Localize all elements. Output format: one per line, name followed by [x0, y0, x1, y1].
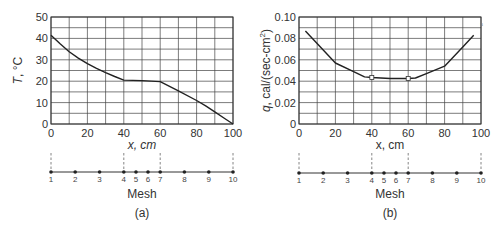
y-tick-label: 40: [36, 32, 48, 44]
mesh-node-label: 5: [134, 175, 139, 184]
y-tick-label: 10: [36, 97, 48, 109]
mesh-node: [394, 171, 398, 175]
y-tick-label: 30: [36, 54, 48, 66]
mesh-node: [406, 171, 410, 175]
mesh-node-label: 1: [297, 176, 302, 185]
y-tick-label: 0.08: [275, 32, 296, 44]
x-tick-label: 100: [472, 127, 490, 139]
x-tick-label: 20: [81, 127, 93, 139]
mesh-node: [134, 170, 138, 174]
panel-caption: (b): [383, 206, 398, 220]
x-tick-label: 0: [296, 127, 302, 139]
mesh-label: Mesh: [375, 187, 404, 201]
heat-flux-curve: [305, 31, 473, 79]
axis-ticks: 02040608010001020304050: [36, 11, 242, 139]
mesh-node-label: 4: [122, 175, 127, 184]
panel-caption: (a): [135, 206, 150, 220]
mesh-node-label: 6: [394, 176, 399, 185]
y-tick-label: 50: [36, 11, 48, 23]
panel-a-temperature-chart: 02040608010001020304050 x, cm T, °C 1234…: [11, 11, 242, 220]
mesh-node: [146, 170, 150, 174]
y-tick-label: 0.02: [275, 97, 296, 109]
mesh-node: [231, 170, 235, 174]
mesh-node-label: 10: [229, 175, 238, 184]
x-tick-label: 100: [224, 127, 242, 139]
mesh-node-label: 8: [430, 176, 435, 185]
mesh-node: [122, 170, 126, 174]
x-tick-label: 0: [48, 127, 54, 139]
x-axis-label: x, cm: [376, 138, 405, 152]
mesh-node: [98, 170, 102, 174]
mesh-node: [49, 170, 53, 174]
mesh-node: [455, 171, 459, 175]
mesh-node: [158, 170, 162, 174]
y-tick-label: 0.10: [275, 11, 296, 23]
mesh-node-label: 8: [182, 175, 187, 184]
panel-b-heat-flux-chart: 02040608010000.020.040.060.080.10 x, cm …: [258, 11, 490, 220]
mesh-node: [370, 171, 374, 175]
y-axis-label: q, cal/(sec-cm2): [258, 29, 273, 112]
x-tick-label: 20: [329, 127, 341, 139]
data-marker: [370, 75, 374, 79]
mesh-node-label: 10: [477, 176, 486, 185]
y-tick-label: 0: [290, 118, 296, 130]
x-tick-label: 80: [190, 127, 202, 139]
mesh-node: [321, 171, 325, 175]
axis-ticks: 02040608010000.020.040.060.080.10: [275, 11, 491, 139]
mesh-node-label: 6: [146, 175, 151, 184]
data-marker: [406, 77, 410, 81]
mesh-label: Mesh: [127, 187, 156, 201]
mesh-node-label: 9: [207, 175, 212, 184]
y-axis-label: T, °C: [11, 56, 25, 84]
y-tick-label: 0.04: [275, 75, 296, 87]
mesh-node: [382, 171, 386, 175]
grid: [51, 17, 233, 124]
mesh-node: [297, 171, 301, 175]
y-tick-label: 20: [36, 75, 48, 87]
mesh-node-label: 1: [49, 175, 54, 184]
mesh-node-label: 3: [97, 175, 102, 184]
grid: [299, 17, 481, 124]
mesh-node: [207, 170, 211, 174]
mesh-node-label: 4: [370, 176, 375, 185]
mesh-node: [183, 170, 187, 174]
mesh-node-label: 2: [321, 176, 326, 185]
mesh-diagram: 12345678910: [49, 153, 238, 184]
mesh-node: [73, 170, 77, 174]
mesh-node: [479, 171, 483, 175]
mesh-node-label: 9: [455, 176, 460, 185]
mesh-diagram: 12345678910: [297, 153, 486, 185]
mesh-node-label: 7: [406, 176, 411, 185]
x-tick-label: 80: [438, 127, 450, 139]
mesh-node-label: 3: [345, 176, 350, 185]
mesh-node: [346, 171, 350, 175]
mesh-node-label: 7: [158, 175, 163, 184]
y-tick-label: 0.06: [275, 54, 296, 66]
x-axis-label: x, cm: [127, 138, 157, 152]
figure: 02040608010001020304050 x, cm T, °C 1234…: [0, 0, 501, 230]
mesh-node-label: 5: [382, 176, 387, 185]
stray-mark: s: [480, 21, 483, 27]
y-tick-label: 0: [42, 118, 48, 130]
mesh-node: [431, 171, 435, 175]
mesh-node-label: 2: [73, 175, 78, 184]
